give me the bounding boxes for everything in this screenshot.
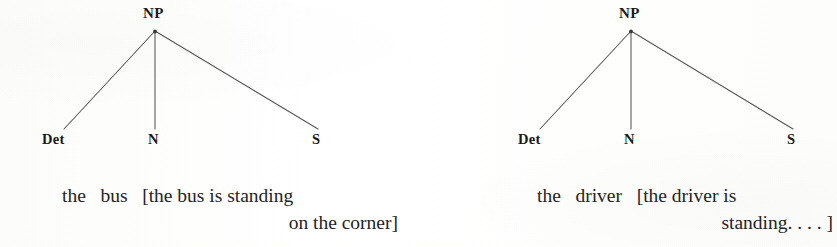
tree-left-leaf-det: Det — [42, 132, 65, 147]
apex-dot-right — [629, 30, 633, 34]
tree-right-gloss-line-2: standing. . . . ] — [600, 209, 833, 236]
tree-right-root-label: NP — [619, 6, 640, 21]
tree-left-leaf-n: N — [148, 132, 159, 147]
figure-canvas: NP Det N S the bus [the bus is standing … — [0, 0, 837, 247]
branch-right-det — [540, 31, 631, 129]
tree-left-root-label: NP — [143, 6, 164, 21]
tree-right-leaf-s: S — [787, 132, 795, 147]
branch-right-s — [631, 31, 793, 129]
apex-dot-left — [153, 30, 157, 34]
tree-left-leaf-s: S — [312, 132, 320, 147]
tree-right-leaf-n: N — [624, 132, 635, 147]
tree-right-gloss-line-1: the driver [the driver is — [537, 182, 736, 209]
branch-left-s — [155, 31, 318, 129]
tree-right-leaf-det: Det — [518, 132, 541, 147]
branch-left-det — [64, 31, 155, 129]
tree-left-gloss-line-1: the bus [the bus is standing — [62, 182, 293, 209]
tree-left-gloss-line-2: on the corner] — [140, 209, 398, 236]
